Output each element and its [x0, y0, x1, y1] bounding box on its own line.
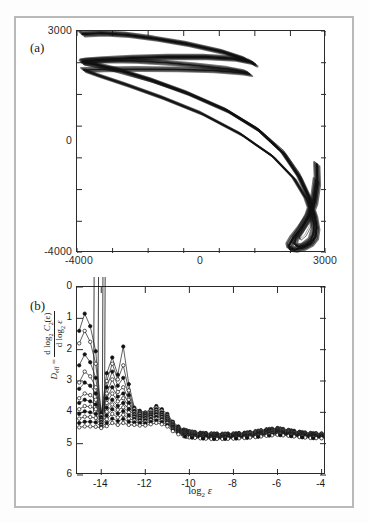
panel-a-label: (a)	[30, 40, 44, 56]
panel-b-ytick-0: 6	[30, 468, 72, 479]
panel-b-ytick-3: 3	[30, 374, 72, 385]
panel-b-ytick-1: 5	[30, 437, 72, 448]
panel-b-axis-ticks	[77, 287, 326, 475]
panel-a-xtick-minus4000: -4000	[57, 254, 101, 266]
panel-b-ytick-2: 4	[30, 405, 72, 416]
panel-b-ytick-4: 2	[30, 343, 72, 354]
panel-b-ytick-5: 1	[30, 311, 72, 322]
panel-b-ylabel-num-base: 2	[48, 334, 54, 337]
panel-b-xtick-minus8: -8	[212, 478, 252, 489]
panel-b-xtick-minus6: -6	[257, 478, 297, 489]
panel-a-ytick-3000: 3000	[28, 24, 72, 36]
panel-a-ytick-0: 0	[28, 134, 72, 146]
panel-b-ylabel-num-corder: 2	[48, 322, 54, 325]
panel-b-plot-area	[76, 286, 325, 474]
panel-a-xtick-3000: 3000	[303, 254, 347, 266]
panel-b-slope-curves	[79, 314, 321, 439]
panel-b-xlabel-base: 2	[202, 491, 205, 498]
figure-root: (a) 3000 0 -4000 -4000 0 3000 (b) Deff =…	[0, 0, 369, 523]
panel-a-xtick-0: 0	[178, 254, 222, 266]
panel-b-ylabel-dsub: eff	[54, 366, 60, 372]
panel-b-ytick-6: 0	[30, 280, 72, 291]
panel-b-xtick-minus4: -4	[301, 478, 341, 489]
panel-b-xtick-minus12: -12	[124, 478, 164, 489]
panel-a-attractor-curves	[80, 31, 320, 251]
panel-b: (b) Deff = d log2 C2(ε) d log2 ε log2 ε …	[0, 268, 369, 523]
panel-a-plot-area	[76, 30, 325, 252]
panel-b-ylabel-equals: =	[49, 359, 59, 364]
panel-b-xtick-minus14: -14	[80, 478, 120, 489]
panel-b-ylabel-den-base: 2	[60, 326, 66, 329]
panel-a-attractor-svg	[77, 31, 326, 253]
panel-b-ylabel-num-c: C	[42, 325, 52, 331]
panel-b-xtick-minus10: -10	[168, 478, 208, 489]
panel-b-dimension-svg	[77, 287, 326, 475]
panel-a: (a) 3000 0 -4000 -4000 0 3000	[0, 0, 369, 268]
